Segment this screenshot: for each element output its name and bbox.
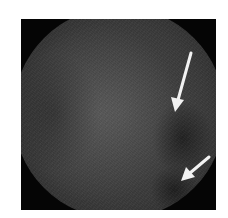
lower-arrow-icon (181, 157, 209, 181)
upper-arrow-icon (171, 53, 191, 112)
annotation-arrows (0, 0, 228, 218)
